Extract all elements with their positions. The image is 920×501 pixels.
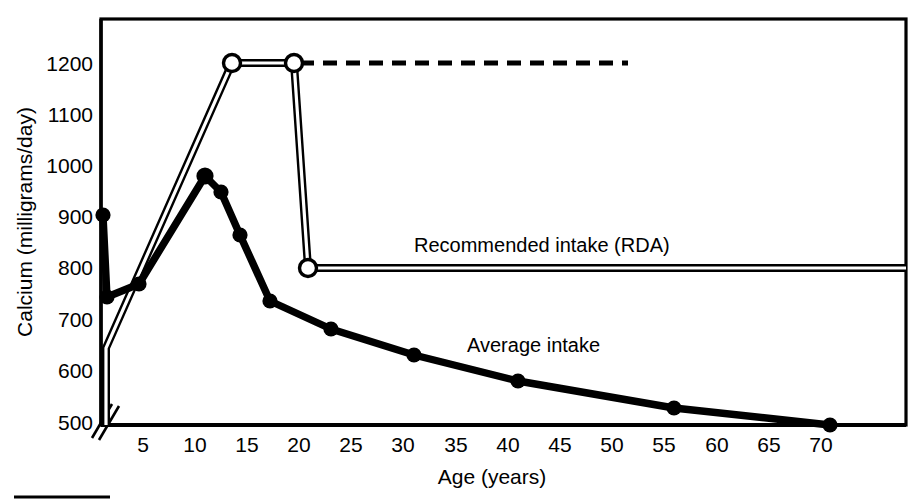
x-tick-labels: 5 10 15 20 25 30 35 40 45 50 55 60 65 70 (137, 433, 833, 456)
average-intake-marker (262, 293, 277, 308)
rda-marker-open-circle (300, 260, 317, 277)
average-intake-marker (213, 184, 228, 199)
y-tick-label: 1000 (46, 154, 93, 177)
x-axis-title: Age (years) (438, 465, 547, 488)
x-tick-label: 10 (183, 433, 206, 456)
x-tick-label: 65 (757, 433, 780, 456)
x-tick-label: 20 (287, 433, 310, 456)
x-tick-label: 60 (705, 433, 728, 456)
rda-marker-open-circle (286, 55, 303, 72)
average-intake-marker (406, 347, 421, 362)
x-tick-label: 55 (652, 433, 675, 456)
y-tick-label: 500 (58, 411, 93, 434)
x-tick-label: 35 (444, 433, 467, 456)
x-tick-label: 70 (809, 433, 832, 456)
average-intake-series-label: Average intake (467, 334, 600, 356)
x-tick-label: 30 (391, 433, 414, 456)
y-tick-label: 800 (58, 256, 93, 279)
x-tick-label: 40 (496, 433, 519, 456)
rda-marker-open-circle (224, 55, 241, 72)
average-intake-marker (99, 289, 114, 304)
y-tick-label: 1100 (48, 103, 93, 126)
x-tick-label: 15 (235, 433, 258, 456)
x-tick-label: 45 (548, 433, 571, 456)
x-tick-label: 25 (339, 433, 362, 456)
y-tick-labels: 1200 1100 1000 900 800 700 600 500 (46, 52, 93, 434)
y-axis-title: Calcium (milligrams/day) (13, 107, 36, 337)
y-tick-label: 700 (58, 308, 93, 331)
average-intake-marker (666, 400, 681, 415)
y-tick-label: 1200 (46, 52, 93, 75)
x-tick-label: 5 (137, 433, 149, 456)
average-intake-marker (196, 167, 213, 184)
average-intake-marker (95, 207, 110, 222)
average-intake-marker (131, 276, 146, 291)
rda-series-label: Recommended intake (RDA) (414, 234, 670, 256)
calcium-intake-line-chart: 1200 1100 1000 900 800 700 600 500 5 10 … (0, 0, 920, 501)
average-intake-marker (510, 373, 525, 388)
chart-figure: 1200 1100 1000 900 800 700 600 500 5 10 … (0, 0, 920, 501)
y-tick-label: 900 (58, 205, 93, 228)
average-intake-marker (822, 417, 837, 432)
y-tick-label: 600 (58, 359, 93, 382)
average-intake-marker (232, 227, 247, 242)
average-intake-marker (323, 321, 338, 336)
x-tick-label: 50 (600, 433, 623, 456)
